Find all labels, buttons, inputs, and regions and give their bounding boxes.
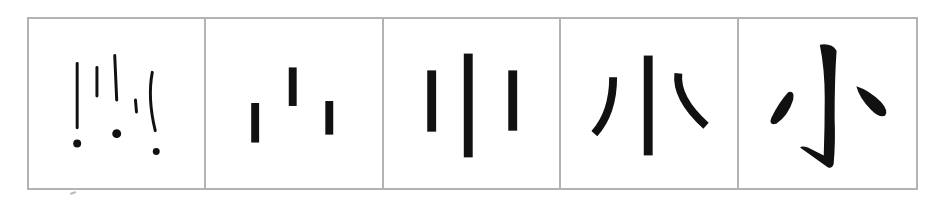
- panel-stage-1: [29, 19, 206, 188]
- panel-stage-2: [206, 19, 383, 188]
- panel-stage-5: [739, 19, 916, 188]
- sketch-strokes-icon: [29, 19, 204, 188]
- scan-artifact-mark: [70, 191, 76, 195]
- panel-stage-4: [561, 19, 738, 188]
- curved-strokes-icon: [561, 19, 736, 188]
- short-bars-icon: [206, 19, 381, 188]
- panel-stage-3: [384, 19, 561, 188]
- character-xiao-icon: [739, 19, 916, 188]
- stroke-order-strip: [27, 17, 918, 190]
- vertical-bars-icon: [384, 19, 559, 188]
